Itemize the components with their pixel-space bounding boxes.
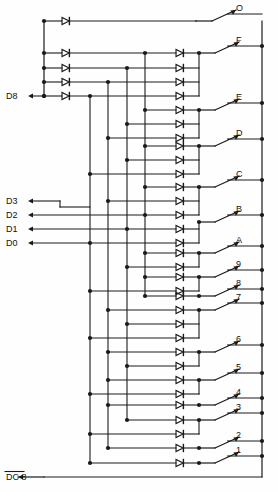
bus-tap-26-108 <box>106 378 110 382</box>
schematic-canvas: OFEDCBA987654321D8D3D2D1D0DC 8 <box>0 0 278 492</box>
bus-tap-18-145 <box>143 275 147 279</box>
bus-tap-28-108 <box>106 403 110 407</box>
bus-tap-8-145 <box>143 144 147 148</box>
bus-tap-2-127 <box>125 66 129 70</box>
output-label-6: 6 <box>236 334 241 344</box>
bus-tap-7-108 <box>106 136 110 140</box>
output-label-5: 5 <box>236 362 241 372</box>
bus-tap-10-90 <box>88 172 92 176</box>
output-label-2: 2 <box>236 430 241 440</box>
circuit-schematic: OFEDCBA987654321D8D3D2D1D0DC 8 <box>0 0 278 492</box>
bus-tap-21-108 <box>106 308 110 312</box>
bus-tap-3-108 <box>106 80 110 84</box>
bus-tap-5-145 <box>143 108 147 112</box>
bus-tap-17-127 <box>125 265 129 269</box>
bus-tap-19-90 <box>88 289 92 293</box>
strobe-label: DC 8 <box>6 472 27 482</box>
left-bus-d8-node <box>42 94 46 98</box>
output-bus-node-4 <box>260 396 264 400</box>
output-bus-node-1 <box>260 454 264 458</box>
output-bus-node-F <box>260 44 264 48</box>
bus-tap-4-90 <box>88 94 92 98</box>
output-label-B: B <box>236 204 242 214</box>
output-bus-node-8 <box>260 287 264 291</box>
input-label-D0: D0 <box>6 238 18 248</box>
output-bus-node-5 <box>260 371 264 375</box>
output-label-O: O <box>236 3 243 13</box>
output-label-D: D <box>236 128 243 138</box>
bus-junction-0 <box>42 19 46 23</box>
output-bus-node-7 <box>260 301 264 305</box>
output-bus-node-A <box>260 244 264 248</box>
output-label-C: C <box>236 169 243 179</box>
output-bus-node-3 <box>260 411 264 415</box>
bus-tap-6-127 <box>125 122 129 126</box>
output-label-A: A <box>236 235 242 245</box>
bus-tap-27-90 <box>88 392 92 396</box>
output-bus-node-B <box>260 213 264 217</box>
bus-junction-1 <box>42 51 46 55</box>
bus-tap-15-90 <box>88 241 92 245</box>
output-label-9: 9 <box>236 259 241 269</box>
bus-tap-20-145 <box>143 294 147 298</box>
input-label-D2: D2 <box>6 210 18 220</box>
bus-tap-23-90 <box>88 336 92 340</box>
output-bus-node-9 <box>260 268 264 272</box>
output-label-4: 4 <box>236 387 241 397</box>
bus-tap-14-127 <box>125 227 129 231</box>
bus-tap-11-145 <box>143 185 147 189</box>
output-label-7: 7 <box>236 292 241 302</box>
output-label-F: F <box>236 35 242 45</box>
output-label-8: 8 <box>236 278 241 288</box>
input-label-D1: D1 <box>6 224 18 234</box>
bus-tap-16-145 <box>143 251 147 255</box>
output-bus-node-D <box>260 137 264 141</box>
bus-tap-32-90 <box>88 461 92 465</box>
output-label-3: 3 <box>236 402 241 412</box>
output-bus-node-C <box>260 178 264 182</box>
input-label-D3: D3 <box>6 196 18 206</box>
output-bus-node-E <box>260 101 264 105</box>
output-bus-node-6 <box>260 343 264 347</box>
bus-tap-31-108 <box>106 446 110 450</box>
bus-tap-12-108 <box>106 199 110 203</box>
output-label-E: E <box>236 92 242 102</box>
bus-tap-22-127 <box>125 322 129 326</box>
bus-junction-2 <box>42 66 46 70</box>
bus-tap-13-145 <box>143 213 147 217</box>
bus-tap-25-127 <box>125 364 129 368</box>
output-bus-node-2 <box>260 439 264 443</box>
bus-junction-3 <box>42 80 46 84</box>
bus-tap-9-127 <box>125 158 129 162</box>
bus-tap-24-108 <box>106 350 110 354</box>
bus-tap-29-127 <box>125 418 129 422</box>
output-label-1: 1 <box>236 445 241 455</box>
input-label-D8: D8 <box>6 91 18 101</box>
bus-tap-30-90 <box>88 432 92 436</box>
bus-tap-1-145 <box>143 51 147 55</box>
